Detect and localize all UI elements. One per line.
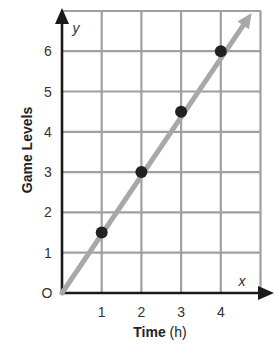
x-tick-label: 4 <box>217 304 225 320</box>
y-tick-label: 5 <box>44 84 52 100</box>
data-point <box>96 227 108 239</box>
y-axis-letter: y <box>72 20 81 36</box>
x-axis-title-main: Time <box>133 324 165 340</box>
x-tick-label: 2 <box>138 304 146 320</box>
y-tick-label: 2 <box>44 204 52 220</box>
y-tick-label: 6 <box>44 43 52 59</box>
chart: 1234123456Oyx <box>0 0 277 357</box>
x-axis-letter: x <box>238 273 247 289</box>
x-axis-title: Time (h) <box>133 324 186 340</box>
y-tick-label: 4 <box>44 124 52 140</box>
origin-label: O <box>42 285 53 301</box>
data-point <box>175 106 187 118</box>
data-points <box>96 45 227 238</box>
data-point <box>215 45 227 57</box>
data-point <box>135 166 147 178</box>
x-tick-label: 1 <box>98 304 106 320</box>
y-axis-title: Game Levels <box>19 107 35 193</box>
x-tick-label: 3 <box>177 304 185 320</box>
y-tick-label: 3 <box>44 164 52 180</box>
x-axis-title-unit: (h) <box>170 324 187 340</box>
y-tick-label: 1 <box>44 245 52 261</box>
x-axis-arrow-icon <box>258 286 274 300</box>
